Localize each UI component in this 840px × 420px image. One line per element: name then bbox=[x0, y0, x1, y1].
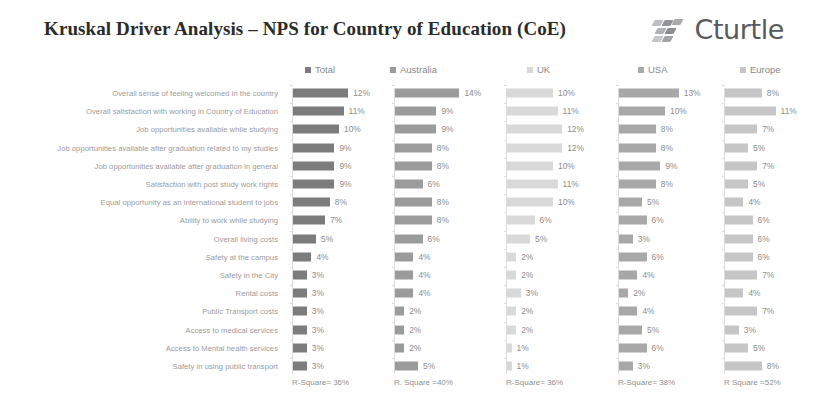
bar[interactable] bbox=[507, 89, 553, 98]
bar[interactable] bbox=[725, 143, 748, 152]
bar[interactable] bbox=[507, 107, 558, 116]
legend-item-australia[interactable]: Australia bbox=[390, 64, 437, 75]
bar[interactable] bbox=[725, 271, 757, 280]
bar[interactable] bbox=[507, 125, 562, 134]
bar[interactable] bbox=[395, 271, 413, 280]
axis-tick bbox=[392, 85, 395, 86]
bar[interactable] bbox=[725, 125, 757, 134]
bar[interactable] bbox=[293, 125, 339, 134]
bar[interactable] bbox=[725, 325, 739, 334]
bar[interactable] bbox=[507, 143, 562, 152]
bar[interactable] bbox=[619, 161, 660, 170]
bar[interactable] bbox=[725, 216, 753, 225]
bar[interactable] bbox=[293, 89, 348, 98]
axis-tick bbox=[722, 231, 725, 232]
legend-item-total[interactable]: Total bbox=[305, 64, 335, 75]
bar[interactable] bbox=[619, 252, 647, 261]
bar[interactable] bbox=[725, 289, 743, 298]
bar[interactable] bbox=[507, 252, 516, 261]
bar[interactable] bbox=[619, 143, 656, 152]
bar[interactable] bbox=[293, 143, 334, 152]
bar[interactable] bbox=[293, 216, 325, 225]
bar[interactable] bbox=[395, 180, 423, 189]
legend-item-europe[interactable]: Europe bbox=[740, 64, 781, 75]
bar[interactable] bbox=[395, 343, 404, 352]
bar[interactable] bbox=[395, 307, 404, 316]
axis-tick bbox=[616, 176, 619, 177]
bar[interactable] bbox=[619, 362, 633, 371]
bar[interactable] bbox=[507, 362, 512, 371]
bar[interactable] bbox=[395, 89, 459, 98]
bar-value-label: 13% bbox=[684, 88, 701, 98]
bar[interactable] bbox=[619, 271, 637, 280]
bar[interactable] bbox=[507, 234, 530, 243]
bar[interactable] bbox=[293, 252, 311, 261]
bar[interactable] bbox=[395, 198, 432, 207]
bar[interactable] bbox=[619, 234, 633, 243]
bar[interactable] bbox=[395, 252, 413, 261]
bar[interactable] bbox=[395, 325, 404, 334]
bar[interactable] bbox=[293, 198, 330, 207]
bar[interactable] bbox=[725, 89, 762, 98]
bar[interactable] bbox=[725, 198, 743, 207]
bar[interactable] bbox=[619, 198, 642, 207]
bar[interactable] bbox=[619, 289, 628, 298]
bar[interactable] bbox=[507, 271, 516, 280]
bar[interactable] bbox=[507, 161, 553, 170]
legend-label: UK bbox=[537, 64, 550, 75]
bar[interactable] bbox=[619, 180, 656, 189]
bar-value-label: 6% bbox=[428, 179, 440, 189]
bar[interactable] bbox=[395, 143, 432, 152]
legend-item-uk[interactable]: UK bbox=[527, 64, 550, 75]
bar[interactable] bbox=[293, 161, 334, 170]
bar[interactable] bbox=[507, 180, 558, 189]
bar[interactable] bbox=[293, 271, 307, 280]
legend-item-usa[interactable]: USA bbox=[638, 64, 668, 75]
bar[interactable] bbox=[725, 343, 748, 352]
bar[interactable] bbox=[293, 343, 307, 352]
diamond-cluster-icon bbox=[652, 17, 686, 43]
bar[interactable] bbox=[507, 198, 553, 207]
bar[interactable] bbox=[725, 234, 753, 243]
bar[interactable] bbox=[725, 307, 757, 316]
bar[interactable] bbox=[293, 362, 307, 371]
axis-tick bbox=[392, 340, 395, 341]
bar[interactable] bbox=[395, 216, 432, 225]
bar[interactable] bbox=[293, 307, 307, 316]
bar[interactable] bbox=[395, 125, 436, 134]
bar[interactable] bbox=[293, 180, 334, 189]
axis-tick bbox=[722, 303, 725, 304]
bar[interactable] bbox=[507, 289, 521, 298]
bar[interactable] bbox=[619, 107, 665, 116]
bar[interactable] bbox=[395, 161, 432, 170]
bar[interactable] bbox=[725, 107, 776, 116]
bar[interactable] bbox=[725, 362, 762, 371]
bar[interactable] bbox=[725, 161, 757, 170]
bar[interactable] bbox=[293, 289, 307, 298]
bar[interactable] bbox=[619, 307, 637, 316]
bar[interactable] bbox=[395, 234, 423, 243]
bar[interactable] bbox=[395, 362, 418, 371]
bar[interactable] bbox=[507, 325, 516, 334]
axis-tick bbox=[290, 249, 293, 250]
category-label: Access to medical services bbox=[186, 325, 278, 334]
bar[interactable] bbox=[619, 343, 647, 352]
bar[interactable] bbox=[507, 307, 516, 316]
bar[interactable] bbox=[395, 289, 413, 298]
bar[interactable] bbox=[293, 325, 307, 334]
bar[interactable] bbox=[507, 216, 535, 225]
bar[interactable] bbox=[619, 89, 679, 98]
axis-tick bbox=[504, 212, 507, 213]
bar[interactable] bbox=[725, 252, 753, 261]
bar[interactable] bbox=[619, 216, 647, 225]
bar[interactable] bbox=[293, 107, 344, 116]
bar[interactable] bbox=[725, 180, 748, 189]
bar[interactable] bbox=[293, 234, 316, 243]
bar-value-label: 6% bbox=[652, 343, 664, 353]
bar[interactable] bbox=[619, 325, 642, 334]
bar[interactable] bbox=[395, 107, 436, 116]
axis-tick bbox=[616, 285, 619, 286]
bar[interactable] bbox=[507, 343, 512, 352]
bar[interactable] bbox=[619, 125, 656, 134]
bar-value-label: 5% bbox=[321, 234, 333, 244]
